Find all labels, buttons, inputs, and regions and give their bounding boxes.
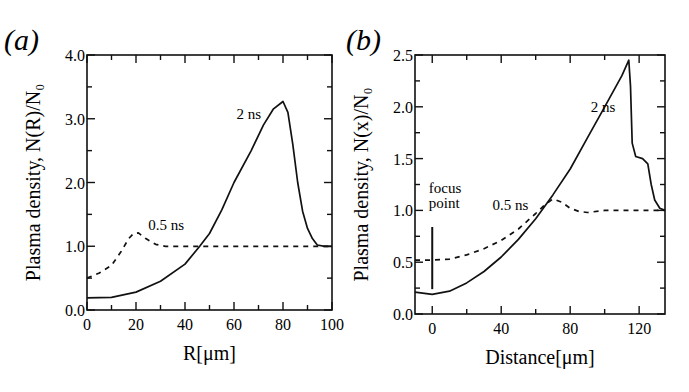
plot-frame <box>87 55 332 310</box>
x-tick-label: 100 <box>320 316 344 333</box>
x-axis-title: Distance[μm] <box>485 346 595 369</box>
x-tick-label: 80 <box>562 320 578 337</box>
y-tick-label: 3.0 <box>65 111 85 128</box>
annotation-label: 0.5 ns <box>148 217 184 233</box>
annotation-label: point <box>429 195 461 211</box>
y-tick-label: 1.0 <box>393 202 413 219</box>
y-tick-label: 0.0 <box>65 302 85 319</box>
y-tick-label: 0.0 <box>393 306 413 323</box>
annotation-label: focus <box>429 180 462 196</box>
annotation-label: 2 ns <box>591 99 616 115</box>
annotation-label: 2 ns <box>236 106 261 122</box>
x-tick-label: 40 <box>493 320 509 337</box>
series-2-ns-line <box>415 60 665 294</box>
y-tick-label: 2.0 <box>393 99 413 116</box>
x-axis-ticks <box>87 55 332 310</box>
y-axis-ticks <box>87 55 332 310</box>
x-axis-title: R[μm] <box>183 342 236 365</box>
annotation-label: 0.5 ns <box>493 197 529 213</box>
y-tick-label: 2.0 <box>65 175 85 192</box>
chart-panel-a: (a)0204060801000.01.02.03.04.0R[μm]Plasm… <box>4 23 344 365</box>
y-tick-label: 1.5 <box>393 151 413 168</box>
figure: (a)0204060801000.01.02.03.04.0R[μm]Plasm… <box>0 0 689 392</box>
y-axis-title: Plasma density, N(R)/N₀ <box>22 84 45 281</box>
x-tick-label: 60 <box>226 316 242 333</box>
x-tick-label: 80 <box>275 316 291 333</box>
series-0_5-ns-line <box>87 233 332 278</box>
y-tick-label: 2.5 <box>393 47 413 64</box>
x-tick-label: 20 <box>128 316 144 333</box>
x-tick-label: 0 <box>428 320 436 337</box>
x-tick-label: 40 <box>177 316 193 333</box>
y-axis-title: Plasma density, N(x)/N₀ <box>350 87 373 281</box>
y-tick-label: 1.0 <box>65 238 85 255</box>
y-tick-label: 4.0 <box>65 47 85 64</box>
chart-panel-b: (b)040801200.00.51.01.52.02.5Distance[μm… <box>346 23 665 369</box>
series-2-ns-line <box>87 102 332 298</box>
panel-label: (a) <box>4 23 39 57</box>
panel-label: (b) <box>346 23 381 57</box>
x-tick-label: 120 <box>627 320 651 337</box>
x-axis-ticks <box>432 55 639 314</box>
y-tick-label: 0.5 <box>393 254 413 271</box>
